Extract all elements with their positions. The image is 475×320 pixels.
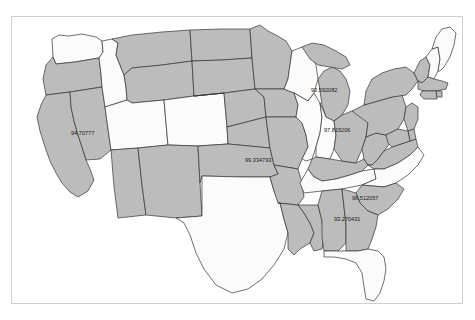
label-georgia: 93.270431 xyxy=(334,216,360,222)
state-north-dakota[interactable] xyxy=(190,29,252,61)
label-nevada: 94.70777 xyxy=(71,130,94,136)
state-minnesota[interactable] xyxy=(250,25,292,89)
state-utah[interactable] xyxy=(105,100,168,150)
state-colorado[interactable] xyxy=(164,93,228,146)
plot-frame: 94.70777 93.592082 97.815206 99.334793 9… xyxy=(11,16,463,304)
label-missouri: 99.334793 xyxy=(245,157,271,163)
us-choropleth-map[interactable]: 94.70777 93.592082 97.815206 99.334793 9… xyxy=(12,17,464,305)
state-connecticut[interactable] xyxy=(420,91,437,99)
label-ohio: 97.815206 xyxy=(324,127,350,133)
label-south-carolina: 96.512057 xyxy=(352,195,378,201)
state-new-mexico[interactable] xyxy=(138,145,202,218)
label-michigan: 93.592082 xyxy=(311,87,337,93)
state-new-jersey[interactable] xyxy=(404,103,418,131)
state-florida[interactable] xyxy=(324,249,386,301)
figure-canvas: 94.70777 93.592082 97.815206 99.334793 9… xyxy=(0,0,475,320)
